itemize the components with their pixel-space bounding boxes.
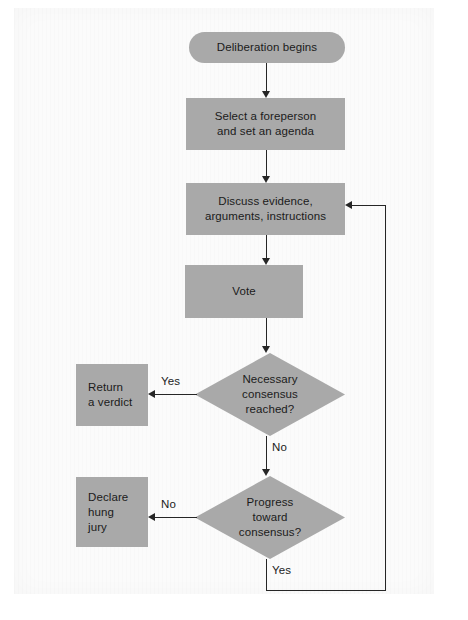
connector-loopback-right — [385, 205, 386, 591]
connector-progress-yes-down — [266, 559, 267, 591]
connector-loopback-top — [352, 205, 386, 206]
node-progress-consensus-label: Progress toward consensus? — [195, 476, 345, 559]
node-progress-consensus-decision: Progress toward consensus? — [195, 476, 345, 559]
connector-start-to-foreperson — [266, 63, 267, 91]
necessary-consensus-line3: reached? — [242, 402, 298, 417]
node-necessary-consensus-label: Necessary consensus reached? — [195, 353, 345, 436]
node-declare-hung-jury-line1: Declare — [88, 490, 128, 505]
node-discuss-evidence-line2: arguments, instructions — [205, 209, 326, 224]
node-return-verdict: Return a verdict — [76, 364, 148, 426]
node-deliberation-begins-label: Deliberation begins — [217, 40, 317, 55]
edge-label-progress-no: No — [161, 498, 176, 510]
arrow-start-to-foreperson — [262, 91, 270, 98]
connector-progress-no-to-hung-jury — [155, 517, 197, 518]
node-discuss-evidence: Discuss evidence, arguments, instruction… — [186, 183, 345, 235]
node-vote-label: Vote — [232, 284, 255, 299]
progress-consensus-line3: consensus? — [239, 525, 301, 540]
progress-consensus-line1: Progress — [239, 495, 301, 510]
node-return-verdict-line2: a verdict — [88, 395, 132, 410]
node-deliberation-begins: Deliberation begins — [189, 32, 345, 63]
arrow-loopback-to-discuss — [345, 201, 352, 209]
connector-foreperson-to-discuss — [266, 150, 267, 176]
edge-label-consensus-no: No — [272, 441, 287, 453]
node-select-foreperson-line2: and set an agenda — [215, 124, 317, 139]
arrow-vote-to-consensus — [262, 346, 270, 353]
connector-consensus-yes-to-verdict — [155, 394, 197, 395]
arrow-consensus-no-to-progress — [262, 469, 270, 476]
connector-consensus-no-to-progress — [266, 436, 267, 469]
node-discuss-evidence-line1: Discuss evidence, — [205, 194, 326, 209]
node-declare-hung-jury: Declare hung jury — [76, 477, 148, 547]
arrow-progress-no-to-hung-jury — [148, 513, 155, 521]
node-vote: Vote — [185, 265, 303, 318]
node-select-foreperson: Select a foreperson and set an agenda — [186, 98, 345, 150]
node-declare-hung-jury-line3: jury — [88, 520, 128, 535]
arrow-foreperson-to-discuss — [262, 176, 270, 183]
connector-discuss-to-vote — [266, 235, 267, 258]
necessary-consensus-line1: Necessary — [242, 372, 298, 387]
node-return-verdict-line1: Return — [88, 380, 132, 395]
progress-consensus-line2: toward — [239, 510, 301, 525]
node-select-foreperson-line1: Select a foreperson — [215, 109, 317, 124]
edge-label-progress-yes: Yes — [272, 564, 291, 576]
node-necessary-consensus-decision: Necessary consensus reached? — [195, 353, 345, 436]
necessary-consensus-line2: consensus — [242, 387, 298, 402]
arrow-consensus-yes-to-verdict — [148, 390, 155, 398]
connector-loopback-bottom — [266, 590, 386, 591]
edge-label-consensus-yes: Yes — [161, 375, 180, 387]
arrow-discuss-to-vote — [262, 258, 270, 265]
connector-vote-to-consensus — [266, 318, 267, 346]
node-declare-hung-jury-line2: hung — [88, 505, 128, 520]
flowchart-page: Deliberation begins Select a foreperson … — [0, 0, 468, 620]
